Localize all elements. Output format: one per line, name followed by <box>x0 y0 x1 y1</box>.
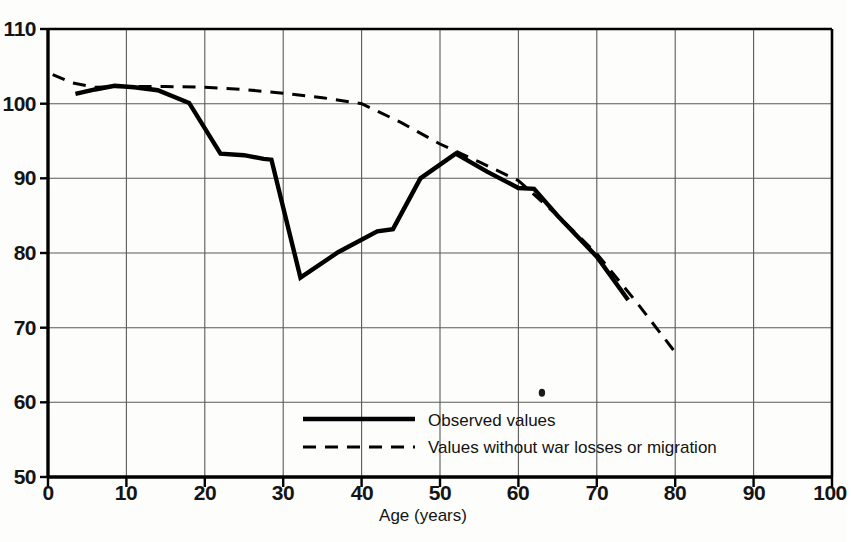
xtick-label-30: 30 <box>263 481 303 505</box>
xtick-label-50: 50 <box>420 481 460 505</box>
ytick-label-60: 60 <box>0 390 36 414</box>
xtick-label-60: 60 <box>498 481 538 505</box>
ink-speck <box>539 389 545 397</box>
xtick-label-20: 20 <box>185 481 225 505</box>
legend-label-values-without-war-losses: Values without war losses or migration <box>428 438 717 458</box>
ytick-label-110: 110 <box>0 17 36 41</box>
ytick-label-90: 90 <box>0 166 36 190</box>
xtick-label-0: 0 <box>28 481 68 505</box>
ytick-label-80: 80 <box>0 241 36 265</box>
legend-label-observed-values: Observed values <box>428 411 556 431</box>
x-axis-title: Age (years) <box>0 506 846 526</box>
xtick-label-10: 10 <box>106 481 146 505</box>
xtick-label-70: 70 <box>577 481 617 505</box>
xtick-label-90: 90 <box>734 481 774 505</box>
ytick-label-70: 70 <box>0 316 36 340</box>
xtick-label-100: 100 <box>806 481 851 505</box>
xtick-label-40: 40 <box>342 481 382 505</box>
xtick-label-80: 80 <box>655 481 695 505</box>
ytick-label-100: 100 <box>0 92 36 116</box>
